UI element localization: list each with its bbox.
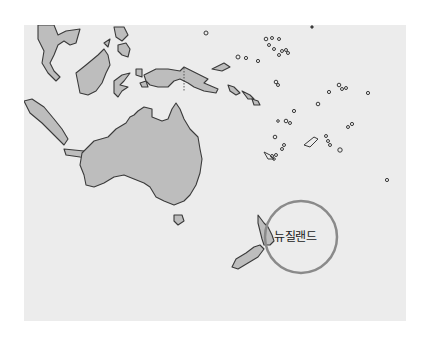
- sumatra: [24, 99, 68, 145]
- map-panel: 뉴질랜드: [24, 25, 406, 321]
- philippines: [114, 27, 128, 41]
- new-zealand-label: 뉴질랜드: [274, 227, 316, 244]
- sulawesi: [114, 73, 130, 97]
- new-guinea: [144, 67, 218, 93]
- oceania-map: [24, 25, 406, 321]
- southeast-asia-mainland: [38, 25, 80, 81]
- borneo: [76, 49, 110, 95]
- pacific-islands: [204, 26, 389, 182]
- australia: [80, 103, 202, 205]
- tasmania: [174, 215, 184, 225]
- new-zealand-south-island: [232, 245, 264, 269]
